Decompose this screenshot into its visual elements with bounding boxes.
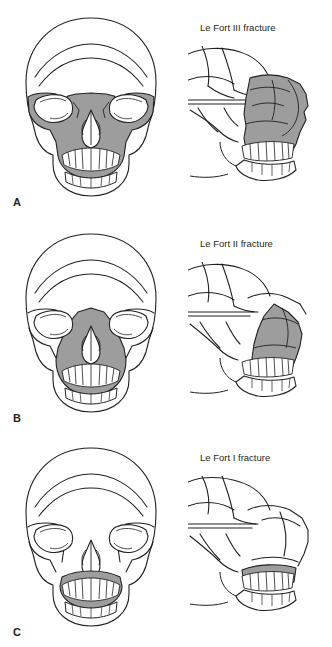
panel-b: Le Fort II fracture B bbox=[0, 222, 332, 432]
le-fort-fracture-figure: Le Fort III fracture A bbox=[0, 0, 332, 647]
frontal-skull-view-a bbox=[6, 14, 176, 209]
panel-b-caption: Le Fort II fracture bbox=[200, 238, 273, 249]
lateral-skull-view-c bbox=[188, 476, 320, 626]
panel-c-caption: Le Fort I fracture bbox=[200, 452, 270, 463]
frontal-skull-view-c bbox=[6, 444, 176, 639]
panel-a: Le Fort III fracture A bbox=[0, 6, 332, 216]
lateral-skull-view-b bbox=[188, 262, 320, 412]
frontal-skull-view-b bbox=[6, 230, 176, 425]
panel-a-caption: Le Fort III fracture bbox=[200, 22, 276, 33]
panel-c: Le Fort I fracture C bbox=[0, 436, 332, 646]
lateral-skull-view-a bbox=[188, 46, 320, 196]
